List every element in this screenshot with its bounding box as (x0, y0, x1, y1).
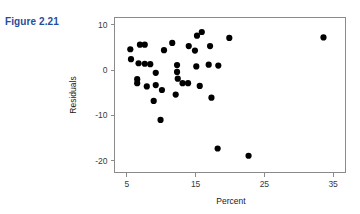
data-point (174, 62, 180, 68)
data-point (142, 61, 148, 67)
y-tick-label: 0 (103, 65, 108, 75)
data-point (147, 61, 153, 67)
data-point (207, 43, 213, 49)
data-point (173, 91, 179, 97)
data-point (161, 47, 167, 53)
x-tick-label: 5 (125, 179, 130, 189)
data-point (169, 40, 175, 46)
x-tick-label: 25 (260, 179, 270, 189)
data-point (199, 29, 205, 35)
x-axis-title: Percent (216, 196, 246, 206)
x-tick-label: 15 (191, 179, 201, 189)
y-axis: 100-10-20 (95, 20, 114, 166)
data-point (186, 43, 192, 49)
data-point (320, 34, 326, 40)
data-point (128, 56, 134, 62)
data-point (193, 63, 199, 69)
y-tick-label: -10 (95, 110, 108, 120)
data-point (153, 82, 159, 88)
data-point (135, 60, 141, 66)
data-point (134, 80, 140, 86)
data-point (192, 47, 198, 53)
x-axis: 5152535 (125, 173, 339, 189)
data-point (127, 46, 133, 52)
y-axis-title: Residuals (68, 76, 78, 113)
data-point (179, 80, 185, 86)
data-point (159, 87, 165, 93)
data-point (174, 69, 180, 75)
data-point (208, 95, 214, 101)
data-point (245, 153, 251, 159)
y-tick-label: 10 (98, 20, 108, 30)
data-point (226, 35, 232, 41)
data-point (185, 80, 191, 86)
data-point (197, 83, 203, 89)
x-tick-label: 35 (328, 179, 338, 189)
data-point (144, 83, 150, 89)
figure-container: Figure 2.21 5152535 100-10-20 Percent Re… (0, 0, 360, 214)
scatter-plot: 5152535 100-10-20 Percent Residuals (0, 0, 360, 214)
data-point (215, 145, 221, 151)
data-point (157, 117, 163, 123)
y-tick-label: -20 (95, 156, 108, 166)
data-points-layer (127, 29, 326, 159)
data-point (153, 70, 159, 76)
data-point (142, 42, 148, 48)
data-point (151, 98, 157, 104)
data-point (175, 76, 181, 82)
data-point (206, 62, 212, 68)
data-point (215, 62, 221, 68)
